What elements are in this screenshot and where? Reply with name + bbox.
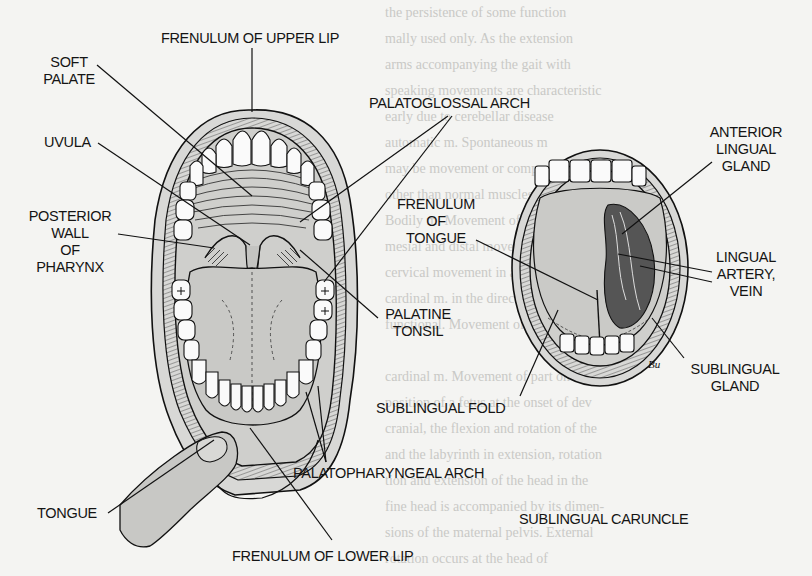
label-line: VEIN: [700, 283, 792, 300]
label-line: PALATE: [36, 71, 102, 88]
label-line: ARTERY,: [700, 266, 792, 283]
label-line: SUBLINGUAL CARUNCLE: [519, 511, 688, 528]
label-line: PALATOPHARYNGEAL ARCH: [293, 465, 484, 482]
label-line: SOFT: [36, 54, 102, 71]
label-line: LINGUAL: [700, 249, 792, 266]
label-line: FRENULUM: [390, 196, 482, 213]
label-line: OF: [20, 242, 120, 259]
label-sublingual-fold: SUBLINGUAL FOLD: [376, 400, 506, 417]
label-line: ANTERIOR: [700, 124, 792, 141]
label-soft-palate: SOFT PALATE: [36, 54, 102, 88]
label-tongue: TONGUE: [37, 505, 97, 522]
label-palatopharyngeal-arch: PALATOPHARYNGEAL ARCH: [293, 465, 484, 482]
label-line: FRENULUM OF LOWER LIP: [232, 548, 413, 565]
label-line: TONGUE: [37, 505, 97, 522]
label-line: PALATOGLOSSAL ARCH: [369, 95, 530, 112]
label-sublingual-caruncle: SUBLINGUAL CARUNCLE: [519, 511, 688, 528]
label-lingual-artery-vein: LINGUAL ARTERY, VEIN: [700, 249, 792, 300]
label-line: LINGUAL: [700, 141, 792, 158]
label-line: TONGUE: [390, 230, 482, 247]
anatomy-illustration: Bu: [0, 0, 812, 576]
label-frenulum-upper-lip: FRENULUM OF UPPER LIP: [150, 30, 350, 47]
label-line: WALL: [20, 225, 120, 242]
label-anterior-lingual-gland: ANTERIOR LINGUAL GLAND: [700, 124, 792, 175]
label-line: SUBLINGUAL: [680, 361, 790, 378]
label-line: PALATINE: [378, 306, 458, 323]
label-frenulum-lower-lip: FRENULUM OF LOWER LIP: [232, 548, 413, 565]
label-line: GLAND: [680, 378, 790, 395]
label-line: TONSIL: [378, 323, 458, 340]
label-line: POSTERIOR: [20, 208, 120, 225]
label-uvula: UVULA: [44, 134, 91, 151]
label-sublingual-gland: SUBLINGUAL GLAND: [680, 361, 790, 395]
label-line: SUBLINGUAL FOLD: [376, 400, 506, 417]
label-line: GLAND: [700, 158, 792, 175]
label-posterior-wall-of-pharynx: POSTERIOR WALL OF PHARYNX: [20, 208, 120, 276]
label-frenulum-of-tongue: FRENULUM OF TONGUE: [390, 196, 482, 247]
label-line: FRENULUM OF UPPER LIP: [150, 30, 350, 47]
label-line: PHARYNX: [20, 259, 120, 276]
figure-page: the persistence of some function mally u…: [0, 0, 812, 576]
right-mouth-illustration: Bu: [512, 150, 688, 386]
label-line: OF: [390, 213, 482, 230]
label-palatoglossal-arch: PALATOGLOSSAL ARCH: [369, 95, 530, 112]
artist-signature: Bu: [648, 358, 661, 370]
label-palatine-tonsil: PALATINE TONSIL: [378, 306, 458, 340]
label-line: UVULA: [44, 134, 91, 151]
